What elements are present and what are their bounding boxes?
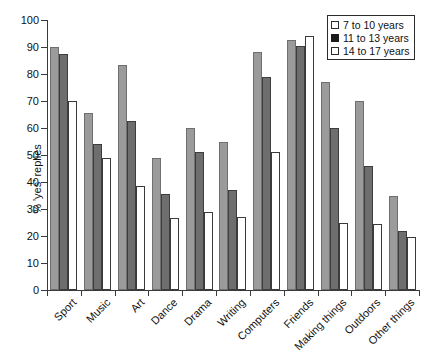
plot-area: 0102030405060708090100 (47, 20, 419, 290)
bar-group-bars (182, 20, 216, 290)
bar-group-bars (284, 20, 318, 290)
y-axis-tick-label: 80 (27, 69, 39, 80)
x-axis-tick-label-text: Dance (149, 296, 180, 327)
x-axis-tick-label-text: Drama (182, 296, 214, 328)
x-axis-tick-mark (148, 290, 149, 296)
bar (287, 40, 296, 290)
x-axis-tick-mark (216, 290, 217, 296)
bar-group (47, 20, 81, 290)
bar-group (81, 20, 115, 290)
bar (118, 65, 127, 290)
legend-item[interactable]: 11 to 13 years (331, 31, 410, 44)
x-axis-tick-label-text: Sport (51, 296, 78, 323)
bar (50, 47, 59, 290)
legend-swatch-icon (331, 21, 339, 29)
bar (219, 142, 228, 291)
bar (330, 128, 339, 290)
bar (136, 186, 145, 290)
bar (186, 128, 195, 290)
legend-item-label: 7 to 10 years (343, 19, 404, 31)
bar-group-bars (318, 20, 352, 290)
bar-group (284, 20, 318, 290)
bar (204, 212, 213, 290)
legend-swatch-icon (331, 34, 339, 42)
bar (321, 82, 330, 290)
bar (262, 77, 271, 290)
bar (237, 217, 246, 290)
bar (398, 231, 407, 290)
bar-group (318, 20, 352, 290)
y-axis-tick-label: 10 (27, 258, 39, 269)
x-axis-tick-mark (47, 290, 48, 296)
bar-group-bars (216, 20, 250, 290)
y-axis-tick-label: 20 (27, 231, 39, 242)
bar-group (182, 20, 216, 290)
bar-group-bars (148, 20, 182, 290)
x-axis-tick-label-text: Music (83, 296, 112, 325)
bar-group-bars (351, 20, 385, 290)
bar-group-bars (115, 20, 149, 290)
bar-group-bars (47, 20, 81, 290)
bar (389, 196, 398, 291)
legend-item-label: 14 to 17 years (343, 45, 410, 57)
y-axis-tick-label: 100 (21, 15, 39, 26)
x-axis-tick-mark (182, 290, 183, 296)
x-axis-tick-mark (318, 290, 319, 296)
bar (373, 224, 382, 290)
x-axis-tick-mark (115, 290, 116, 296)
x-axis-tick-label-text: Art (128, 296, 146, 314)
x-axis-tick-mark (250, 290, 251, 296)
y-axis-tick-label: 50 (27, 150, 39, 161)
bar (407, 237, 416, 290)
bar (170, 218, 179, 290)
x-axis-line (47, 290, 419, 291)
bar (59, 54, 68, 290)
x-axis-tick-label: Drama (182, 296, 214, 328)
x-axis-tick-mark (419, 290, 420, 296)
bar (305, 36, 314, 290)
bar-group (250, 20, 284, 290)
bar (253, 52, 262, 290)
bar (228, 190, 237, 290)
bar-group-bars (385, 20, 419, 290)
bar (355, 101, 364, 290)
x-axis-tick-label-text: Writing (215, 296, 248, 329)
legend-item[interactable]: 7 to 10 years (331, 18, 410, 31)
bar (68, 101, 77, 290)
x-axis-tick-mark (351, 290, 352, 296)
bar (364, 166, 373, 290)
y-axis-tick-label: 60 (27, 123, 39, 134)
legend-swatch-icon (331, 47, 339, 55)
x-axis-tick-label: Art (128, 296, 146, 314)
legend: 7 to 10 years11 to 13 years14 to 17 year… (327, 15, 415, 60)
y-axis-tick-label: 0 (33, 285, 39, 296)
y-axis-tick-label: 90 (27, 42, 39, 53)
bar (339, 223, 348, 291)
bar-group (115, 20, 149, 290)
bar-group (351, 20, 385, 290)
bar-group (216, 20, 250, 290)
bar (127, 121, 136, 290)
bar (195, 152, 204, 290)
bar-group (385, 20, 419, 290)
bar-group-bars (81, 20, 115, 290)
bar (296, 46, 305, 290)
legend-item[interactable]: 14 to 17 years (331, 44, 410, 57)
bar-chart: % 'yes' replies 0102030405060708090100 S… (0, 0, 428, 357)
y-axis-tick-label: 70 (27, 96, 39, 107)
x-axis-tick-mark (284, 290, 285, 296)
bar-group (148, 20, 182, 290)
y-axis-tick-label: 40 (27, 177, 39, 188)
x-axis-tick-label: Dance (149, 296, 180, 327)
bar (93, 144, 102, 290)
x-axis-tick-label: Music (83, 296, 112, 325)
bar (84, 113, 93, 290)
bar (152, 158, 161, 290)
x-axis-tick-mark (81, 290, 82, 296)
bar-group-bars (250, 20, 284, 290)
y-axis-tick-label: 30 (27, 204, 39, 215)
bar (271, 152, 280, 290)
bar (161, 194, 170, 290)
bar (102, 158, 111, 290)
x-axis-tick-mark (385, 290, 386, 296)
